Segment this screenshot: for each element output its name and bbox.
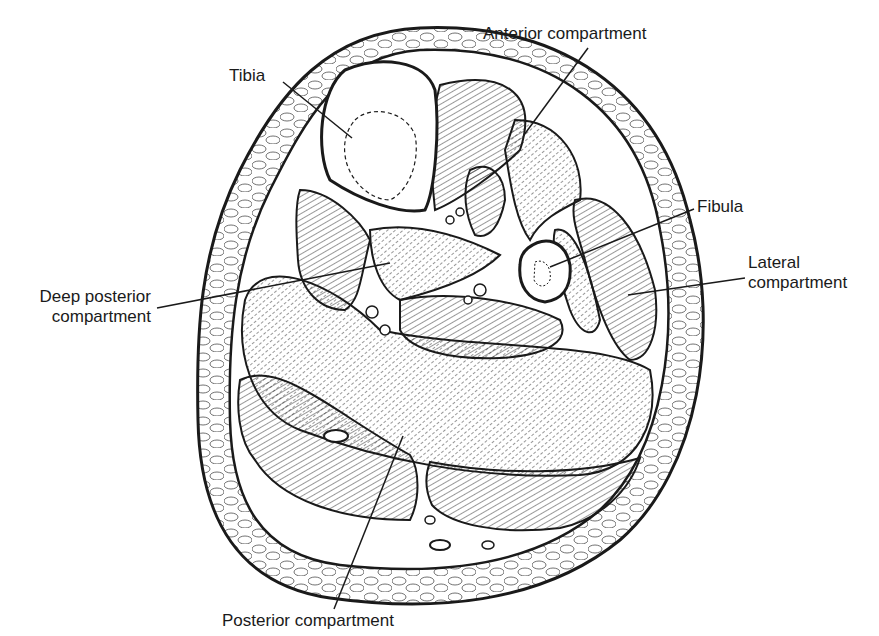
label-posterior-compartment: Posterior compartment — [222, 611, 394, 631]
label-deep-posterior-line2: compartment — [6, 307, 151, 327]
label-lateral-line1: Lateral — [748, 253, 847, 273]
fibula-bone — [520, 241, 570, 302]
label-fibula: Fibula — [697, 197, 743, 217]
label-tibia: Tibia — [229, 66, 265, 86]
label-deep-posterior-line1: Deep posterior — [6, 287, 151, 307]
label-anterior-compartment: Anterior compartment — [483, 24, 646, 44]
label-lateral: Lateral compartment — [748, 253, 847, 293]
label-deep-posterior: Deep posterior compartment — [6, 287, 151, 327]
leg-cross-section-figure: Tibia Anterior compartment Fibula Deep p… — [0, 0, 879, 636]
label-lateral-line2: compartment — [748, 273, 847, 293]
